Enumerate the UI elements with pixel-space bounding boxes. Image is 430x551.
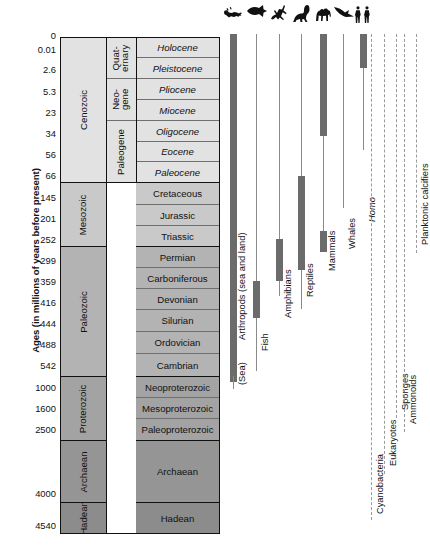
range-line: [416, 34, 417, 253]
range-line: [384, 34, 385, 474]
range-label: (Sea): [237, 362, 247, 385]
range-line: [404, 34, 405, 432]
whale-icon: [333, 4, 355, 18]
range-line: [371, 34, 372, 520]
range-label: Mammals: [327, 231, 337, 271]
range-line: [256, 34, 257, 371]
dinosaur-icon: [291, 4, 315, 24]
range-bar: [253, 281, 260, 318]
fish-icon: [246, 4, 268, 18]
camel-icon: [313, 4, 335, 22]
scorpion-icon: [223, 4, 245, 22]
range-line: [396, 34, 397, 418]
range-bar: [360, 34, 367, 68]
amphibian-icon: [269, 4, 291, 22]
range-line: [343, 34, 344, 208]
range-label: Eukaryotes: [388, 419, 398, 466]
range-label: Reptiles: [305, 263, 315, 297]
range-label: Planktonic calcifiers: [420, 163, 430, 245]
range-label: Arthropods (sea and land): [237, 233, 247, 341]
range-label: Amphibians: [283, 269, 293, 318]
range-label: Ammonoids: [408, 375, 418, 424]
range-bar: [298, 176, 305, 270]
range-label: Fish: [260, 333, 270, 351]
range-label: Whales: [347, 218, 357, 249]
range-line: [233, 376, 234, 389]
range-label: Homo: [367, 197, 377, 222]
humans-icon: [353, 4, 373, 24]
range-bar: [320, 34, 327, 136]
